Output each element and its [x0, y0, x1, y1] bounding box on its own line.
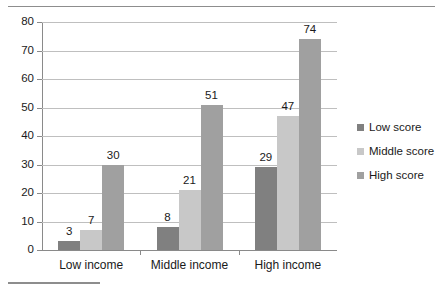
y-axis-tick-label: 10 — [4, 216, 34, 228]
bar — [255, 167, 277, 250]
y-axis-tick-label: 50 — [4, 102, 34, 114]
y-axis-tick-label: 30 — [4, 159, 34, 171]
legend-swatch-icon — [357, 124, 364, 131]
legend-label: High score — [369, 169, 424, 181]
bar-value-label: 21 — [173, 175, 207, 187]
legend-item[interactable]: High score — [357, 163, 437, 187]
bar — [102, 165, 124, 251]
bar-value-label: 47 — [271, 101, 305, 113]
x-axis-category-label: High income — [239, 258, 337, 272]
y-axis-tick-label: 20 — [4, 187, 34, 199]
bar-value-label: 29 — [249, 152, 283, 164]
grouped-bar-chart: 80706050403020100 373082151294774 Low in… — [0, 0, 440, 288]
category-separator-tick — [140, 250, 141, 255]
y-axis-tick-label: 70 — [4, 45, 34, 57]
category-separator-tick — [239, 250, 240, 255]
legend-item[interactable]: Low score — [357, 115, 437, 139]
legend-item[interactable]: Middle score — [357, 139, 437, 163]
chart-legend: Low scoreMiddle scoreHigh score — [357, 115, 437, 187]
bar-value-label: 51 — [195, 90, 229, 102]
bar — [299, 39, 321, 250]
x-axis-category-label: Middle income — [140, 258, 238, 272]
legend-label: Middle score — [369, 145, 434, 157]
y-axis-tick-label: 60 — [4, 73, 34, 85]
bar — [58, 241, 80, 250]
bar-value-label: 8 — [151, 212, 185, 224]
bar-value-label: 74 — [293, 24, 327, 36]
bar-value-label: 3 — [52, 226, 86, 238]
x-axis-category-label: Low income — [42, 258, 140, 272]
y-axis-tick-label: 0 — [4, 244, 34, 256]
bar-value-label: 7 — [74, 215, 108, 227]
legend-swatch-icon — [357, 172, 364, 179]
legend-swatch-icon — [357, 148, 364, 155]
bar — [277, 116, 299, 250]
bar-value-label: 30 — [96, 150, 130, 162]
bottom-divider-rule — [8, 282, 100, 284]
y-axis-tick-label: 80 — [4, 16, 34, 28]
bar — [157, 227, 179, 250]
y-axis-tick-label: 40 — [4, 130, 34, 142]
gridline — [42, 250, 337, 251]
y-axis-tick-labels: 80706050403020100 — [0, 0, 34, 288]
legend-label: Low score — [369, 121, 421, 133]
y-axis-tick-mark — [37, 250, 42, 251]
